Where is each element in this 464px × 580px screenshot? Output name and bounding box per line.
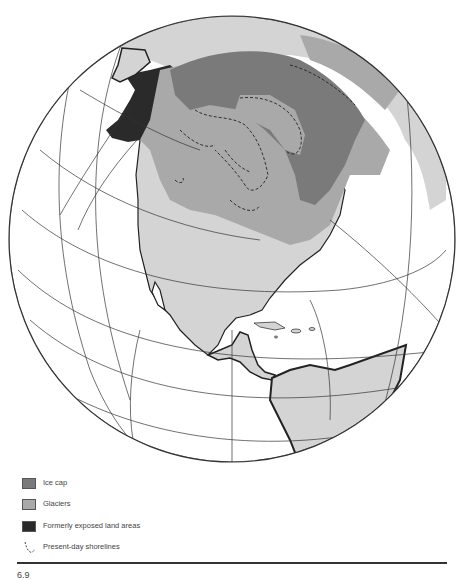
legend-label: Glaciers (43, 498, 71, 510)
globe-map (0, 0, 464, 470)
figure-divider (17, 562, 447, 564)
legend-label: Formerly exposed land areas (43, 520, 140, 532)
formerly-exposed-swatch (22, 521, 36, 532)
glaciers-swatch (22, 499, 36, 510)
legend-label: Present-day shorelines (43, 541, 120, 553)
legend-label: Ice cap (43, 477, 67, 489)
ice-cap-swatch (22, 478, 36, 489)
figure-caption: 6.9 (17, 570, 30, 580)
dashed-shoreline-icon (22, 540, 38, 554)
